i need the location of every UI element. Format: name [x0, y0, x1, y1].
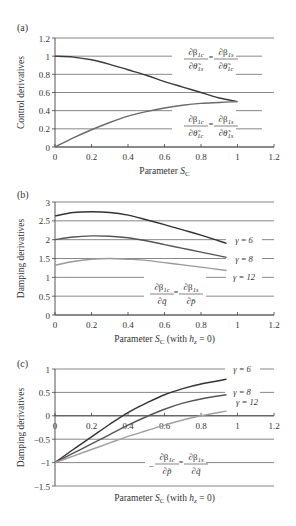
fraction-numerator: ∂β1s [184, 282, 199, 293]
equals-sign: = [179, 458, 184, 467]
panel-label: (b) [17, 189, 29, 201]
y-tick-label: −1.5 [34, 482, 51, 492]
x-tick-label: 1.2 [268, 320, 279, 330]
fraction-denominator: ∂p̃ [163, 466, 172, 476]
series-line [55, 212, 227, 244]
y-tick-label: 1.2 [39, 34, 50, 44]
fraction-numerator: ∂β1c [188, 114, 203, 125]
fraction-denominator: ∂θ̃1c [218, 61, 233, 72]
fraction-numerator: ∂β1s [219, 114, 234, 125]
fraction-denominator: ∂q̄ [158, 296, 167, 306]
gamma-label: γ = 12 [233, 272, 256, 282]
panel-a-chart: (a)00.20.40.60.811.200.20.40.60.811.2Con… [16, 22, 280, 178]
x-tick-label: 0.2 [86, 152, 97, 162]
x-tick-label: 0.2 [86, 421, 97, 431]
y-axis-label: Damping derivatives [16, 218, 26, 298]
y-tick-label: 2.5 [39, 216, 51, 226]
x-tick-label: 0.6 [159, 152, 171, 162]
fraction-numerator: ∂β1c [159, 452, 174, 463]
y-tick-label: 0.2 [39, 124, 50, 134]
minus-sign: − [148, 461, 153, 471]
panel-b-chart: (b)00.511.522.5300.20.40.60.811.2Damping… [16, 189, 280, 346]
fraction-numerator: ∂β1c [188, 47, 203, 58]
equals-sign: = [174, 288, 179, 297]
gamma-label: γ = 6 [233, 364, 251, 374]
panel-c-chart: (c)−1.5−1−0.500.5100.20.40.60.811.2Dampi… [16, 358, 280, 505]
x-tick-label: 0.6 [159, 320, 171, 330]
x-tick-label: 1 [235, 320, 240, 330]
y-tick-label: 1.5 [39, 254, 51, 264]
fraction-numerator: ∂β1c [154, 282, 169, 293]
fraction-numerator: ∂β1s [219, 47, 234, 58]
series-line [55, 259, 227, 271]
fraction-denominator: ∂p̄ [187, 296, 196, 306]
x-tick-label: 0 [53, 421, 58, 431]
y-tick-label: 0 [46, 411, 51, 421]
x-tick-label: 1 [235, 152, 240, 162]
fraction-denominator: ∂θ̃1c [188, 128, 203, 139]
x-tick-label: 0.8 [195, 152, 207, 162]
y-tick-label: 2 [46, 235, 51, 245]
x-axis-label: Parameter SC (with hz = 0) [114, 334, 215, 346]
y-tick-label: 0.8 [39, 70, 51, 80]
panel-label: (a) [17, 22, 28, 34]
x-tick-label: 0.2 [86, 320, 97, 330]
x-tick-label: 1.2 [268, 152, 279, 162]
x-tick-label: 0.8 [195, 320, 207, 330]
x-tick-label: 0.8 [195, 421, 207, 431]
y-axis-label: Control derivatives [16, 56, 26, 129]
figure: (a)00.20.40.60.811.200.20.40.60.811.2Con… [0, 0, 296, 526]
series-line [55, 236, 227, 258]
x-tick-label: 1 [235, 421, 240, 431]
equals-sign: = [209, 53, 214, 62]
y-tick-label: 1 [46, 52, 51, 62]
fraction-denominator: ∂q̃ [192, 466, 201, 476]
x-axis-label: Parameter SC [139, 166, 190, 178]
y-tick-label: 0.4 [39, 106, 51, 116]
y-tick-label: 0 [46, 311, 51, 321]
equals-sign: = [209, 120, 214, 129]
gamma-label: γ = 8 [235, 254, 253, 264]
panel-label: (c) [17, 358, 28, 370]
x-tick-label: 0 [53, 320, 58, 330]
y-tick-label: 1 [46, 365, 51, 375]
x-tick-label: 0 [53, 152, 58, 162]
y-axis-label: Damping derivatives [16, 387, 26, 467]
gamma-label: γ = 12 [236, 397, 259, 407]
x-tick-label: 1.2 [268, 421, 279, 431]
fraction-denominator: ∂θ̃1s [189, 61, 204, 72]
y-tick-label: 0.5 [39, 292, 51, 302]
y-tick-label: 0.5 [39, 388, 51, 398]
x-tick-label: 0.4 [122, 320, 134, 330]
y-tick-label: −1 [40, 458, 50, 468]
y-tick-label: 0 [46, 143, 51, 153]
x-tick-label: 0.4 [122, 152, 134, 162]
y-tick-label: 1 [46, 273, 51, 283]
gamma-label: γ = 6 [235, 235, 253, 245]
y-tick-label: −0.5 [34, 435, 51, 445]
fraction-numerator: ∂β1s [189, 452, 204, 463]
y-tick-label: 3 [46, 198, 51, 208]
y-tick-label: 0.6 [39, 88, 51, 98]
x-axis-label: Parameter SC (with hz = 0) [114, 493, 215, 505]
fraction-denominator: ∂θ̃1s [219, 128, 234, 139]
series-line [55, 56, 238, 101]
